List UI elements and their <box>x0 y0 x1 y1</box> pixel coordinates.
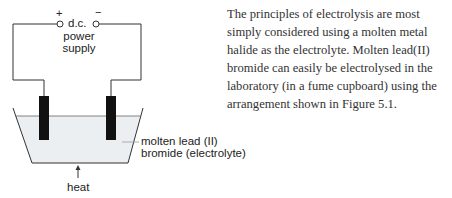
power-supply-label-line2: power <box>58 30 100 42</box>
positive-terminal-icon <box>57 21 63 27</box>
electrolyte-label: molten lead (II) bromide (electrolyte) <box>141 135 246 159</box>
electrolyte-label-line2: bromide (electrolyte) <box>141 147 246 159</box>
power-supply-label: d.c. power supply <box>64 17 94 54</box>
electrolysis-diagram: + − d.c. power supply molten lead (II) b… <box>0 0 230 198</box>
circuit-drawing <box>0 0 230 198</box>
electrolyte-label-line1: molten lead (II) <box>141 135 246 147</box>
molten-electrolyte <box>16 116 142 163</box>
cathode-electrode <box>106 96 116 140</box>
anode-electrode <box>39 96 49 140</box>
power-supply-label-line3: supply <box>58 42 100 54</box>
wire-positive <box>13 24 57 96</box>
body-paragraph: The principles of electrolysis are most … <box>227 5 452 113</box>
wire-negative <box>99 24 141 96</box>
negative-sign: − <box>95 6 101 18</box>
positive-sign: + <box>56 7 62 19</box>
power-supply-label-line1: d.c. <box>64 17 94 29</box>
heat-label: heat <box>67 181 89 193</box>
heat-arrow-icon <box>76 165 81 170</box>
